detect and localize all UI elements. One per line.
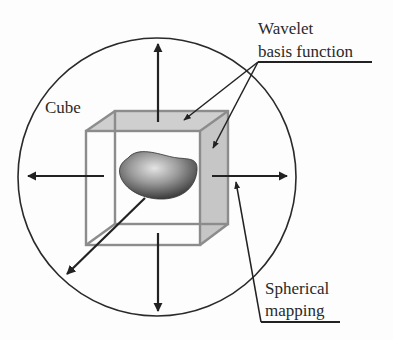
bean-object bbox=[119, 152, 197, 199]
wavelet-label-line2: basis function bbox=[258, 42, 353, 62]
cube-label: Cube bbox=[45, 98, 81, 118]
spherical-label-line1: Spherical bbox=[265, 279, 329, 299]
arrow-down-left bbox=[67, 198, 145, 274]
spherical-label-line2: mapping bbox=[265, 301, 325, 321]
wavelet-label-line1: Wavelet bbox=[258, 19, 313, 39]
diagram-canvas: Cube Wavelet basis function Spherical ma… bbox=[0, 0, 393, 340]
